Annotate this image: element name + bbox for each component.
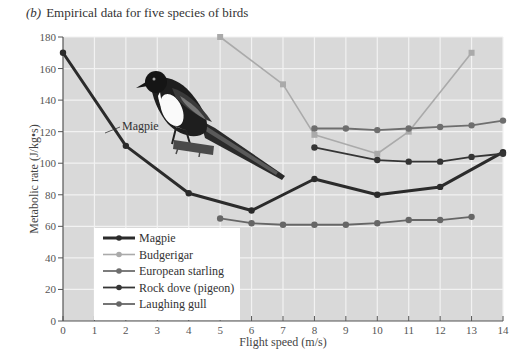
legend-marker [116,235,122,241]
data-point [406,158,412,164]
data-point [374,220,380,226]
data-point [468,122,474,128]
chart: (b)Empirical data for five species of bi… [0,0,526,352]
data-point [406,125,412,131]
data-point [280,81,286,87]
x-tick-label: 1 [92,324,98,336]
legend-marker [116,301,122,307]
x-tick-label: 0 [60,324,66,336]
data-point [437,158,443,164]
y-tick-label: 40 [45,252,57,264]
data-point [60,50,66,56]
y-tick-label: 100 [40,157,57,169]
y-tick-label: 140 [40,94,57,106]
y-axis-label: Metabolic rate (J/kg•s) [27,124,41,234]
legend-label: Magpie [139,231,176,245]
data-point [374,127,380,133]
x-tick-label: 9 [343,324,349,336]
data-point [500,117,506,123]
data-point [280,222,286,228]
data-point [437,184,443,190]
data-point [469,50,475,56]
x-tick-label: 4 [186,324,192,336]
panel-label: (b) [26,5,41,20]
data-point [374,192,380,198]
x-tick-label: 14 [498,324,510,336]
data-point [311,222,317,228]
y-tick-label: 120 [40,126,57,138]
x-axis-label: Flight speed (m/s) [239,335,326,349]
x-tick-label: 12 [435,324,446,336]
data-point [217,34,223,40]
legend-label: Budgerigar [139,248,193,262]
legend: MagpieBudgerigarEuropean starlingRock do… [94,228,240,320]
data-point [217,215,223,221]
chart-title: (b)Empirical data for five species of bi… [26,5,248,20]
data-point [311,144,317,150]
data-point [248,220,254,226]
data-point [374,151,380,157]
y-tick-label: 60 [45,220,57,232]
y-tick-label: 80 [45,189,57,201]
data-point [186,190,192,196]
x-tick-label: 13 [466,324,478,336]
legend-label: Laughing gull [139,297,207,311]
data-point [343,222,349,228]
x-tick-label: 10 [372,324,384,336]
data-point [437,124,443,130]
chart-title-text: Empirical data for five species of birds [46,5,248,20]
x-tick-label: 5 [217,324,223,336]
legend-label: Rock dove (pigeon) [139,281,234,295]
y-tick-label: 20 [45,283,57,295]
data-point [123,143,129,149]
data-point [343,125,349,131]
x-tick-label: 11 [403,324,414,336]
data-point [311,125,317,131]
x-tick-label: 2 [123,324,129,336]
data-point [248,207,254,213]
data-point [374,157,380,163]
legend-marker [116,252,122,258]
x-tick-label: 3 [155,324,161,336]
annotation-magpie-label: Magpie [122,119,159,133]
data-point [437,217,443,223]
data-point [311,132,317,138]
data-point [406,217,412,223]
legend-label: European starling [139,264,224,278]
y-tick-label: 0 [51,315,57,327]
data-point [468,154,474,160]
y-tick-label: 160 [40,63,57,75]
data-point [311,176,317,182]
data-point [468,214,474,220]
legend-marker [116,268,122,274]
y-tick-label: 180 [40,31,57,43]
legend-marker [116,285,122,291]
data-point [500,151,506,157]
